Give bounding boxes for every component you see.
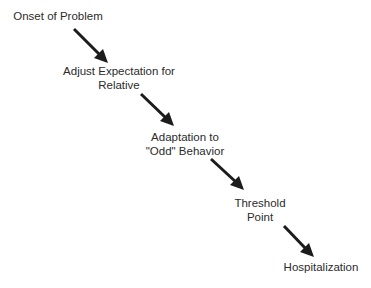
node-label: Hospitalization (284, 261, 359, 275)
node-threshold-point: Threshold Point (234, 197, 285, 224)
node-label: Onset of Problem (13, 10, 102, 24)
node-label-line-1: Threshold (234, 197, 285, 211)
node-onset-of-problem: Onset of Problem (13, 10, 102, 24)
arrow-onset-to-adjust (74, 29, 108, 63)
node-adjust-expectation: Adjust Expectation for Relative (63, 65, 175, 92)
node-adaptation-to-odd-behavior: Adaptation to "Odd" Behavior (146, 131, 224, 158)
flow-diagram: Onset of Problem Adjust Expectation for … (0, 0, 371, 288)
arrow-threshold-to-hospitalization (284, 226, 314, 257)
node-label-line-1: Adaptation to (146, 131, 224, 145)
arrow-adjust-to-adaptation (141, 94, 174, 126)
node-label-line-1: Adjust Expectation for (63, 65, 175, 79)
node-label-line-2: Point (234, 211, 285, 225)
node-hospitalization: Hospitalization (284, 261, 359, 275)
arrow-adaptation-to-threshold (211, 159, 244, 190)
node-label-line-2: "Odd" Behavior (146, 145, 224, 159)
node-label-line-2: Relative (63, 79, 175, 93)
